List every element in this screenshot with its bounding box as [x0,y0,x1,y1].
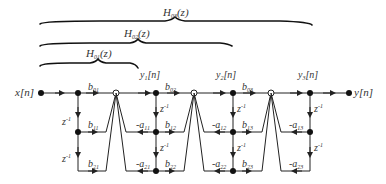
svg-text:b22: b22 [165,158,176,170]
brace-h01: H01(z) [40,47,138,68]
svg-text:-a13: -a13 [289,119,303,131]
svg-text:b02: b02 [165,81,176,93]
stage-1: z-1 z-1 b01 b11 b21 [38,81,116,171]
input-label: x[n] [14,86,34,98]
y3-label: y3[n] [297,69,318,81]
svg-text:z-1: z-1 [313,142,323,153]
stage-4: z-1 z-1 -a13 -a23 [285,90,352,171]
svg-text:z-1: z-1 [236,142,246,153]
svg-text:z-1: z-1 [159,103,169,114]
svg-text:z-1: z-1 [236,103,246,114]
svg-text:b11: b11 [88,119,99,131]
svg-text:b13: b13 [242,119,253,131]
svg-text:H02(z): H02(z) [123,27,150,40]
svg-text:-a11: -a11 [136,119,150,131]
stage-2: z-1 z-1 -a11 -a21 b02 b12 b22 [130,81,194,174]
brace-h03: H03(z) [40,6,312,25]
svg-text:-a23: -a23 [289,158,303,170]
svg-text:b21: b21 [88,158,99,170]
svg-text:z-1: z-1 [313,103,323,114]
svg-text:z-1: z-1 [61,153,71,164]
svg-text:-a21: -a21 [136,158,150,170]
signal-flow-diagram: H03(z) H02(z) H01(z) x[n] y[n] y1[n] y2[… [0,0,386,184]
svg-text:b01: b01 [88,81,99,93]
svg-text:b12: b12 [165,119,176,131]
stage-3: z-1 z-1 -a12 -a22 b03 b13 b23 [208,81,271,174]
output-label: y[n] [353,86,373,98]
brace-h02: H02(z) [40,27,232,46]
y2-label: y2[n] [215,69,236,81]
svg-text:-a22: -a22 [212,158,226,170]
svg-text:b23: b23 [242,158,253,170]
svg-text:z-1: z-1 [159,142,169,153]
svg-text:b03: b03 [242,81,253,93]
y1-label: y1[n] [139,69,160,81]
svg-text:-a12: -a12 [212,119,226,131]
svg-text:H03(z): H03(z) [162,6,189,19]
svg-text:z-1: z-1 [61,116,71,127]
svg-text:H01(z): H01(z) [85,47,112,60]
